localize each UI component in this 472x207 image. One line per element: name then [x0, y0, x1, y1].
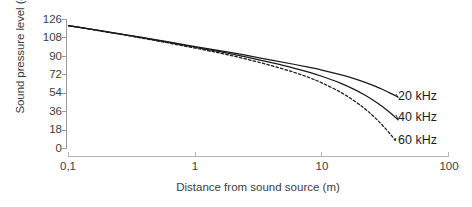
x-tick-label: 100: [439, 160, 458, 172]
legend-label-20khz: 20 kHz: [398, 89, 437, 103]
x-axis: [69, 152, 449, 157]
y-tick-label: 18: [22, 124, 62, 136]
plot-area: [0, 0, 472, 207]
y-tick-label: 54: [22, 87, 62, 99]
y-tick-label: 36: [22, 106, 62, 118]
x-tick-label: 10: [316, 160, 329, 172]
data-curves: [69, 26, 399, 141]
series-line-60-khz: [69, 26, 396, 141]
x-tick-label: 1: [192, 160, 198, 172]
leader-line: [395, 138, 396, 140]
x-tick-label: 0,1: [60, 160, 76, 172]
y-tick-label: 0: [22, 143, 62, 155]
y-tick-label: 108: [22, 32, 62, 44]
series-line-40-khz: [69, 26, 399, 120]
y-tick-label: 90: [22, 51, 62, 63]
x-axis-label: Distance from sound source (m): [68, 181, 448, 193]
y-tick-label: 72: [22, 69, 62, 81]
legend-label-60khz: 60 kHz: [398, 133, 437, 147]
y-tick-label: 126: [22, 14, 62, 26]
y-axis: [62, 20, 67, 149]
y-tick-label-group: 126 108 90 72 54 36 18 0: [22, 0, 62, 207]
chart-figure: Sound pressure level (dB SPL) 126 108 90…: [0, 0, 472, 207]
legend-label-40khz: 40 kHz: [398, 110, 437, 124]
